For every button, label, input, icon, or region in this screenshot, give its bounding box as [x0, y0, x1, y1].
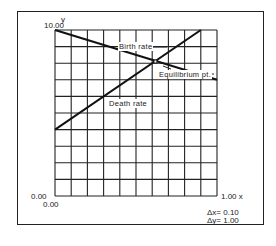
y-max-label: 10.00 [44, 21, 64, 30]
equilibrium-point [154, 60, 157, 63]
x-min-label: 0.00 [43, 200, 59, 209]
equilibrium-label: Equilibrium pt. [158, 70, 212, 79]
death-rate-label: Death rate [108, 99, 148, 108]
x-max-label: 1.00 x [221, 192, 243, 201]
birth-rate-label: Birth rate [118, 42, 153, 51]
delta-y-label: Δy= 1.00 [207, 216, 239, 225]
